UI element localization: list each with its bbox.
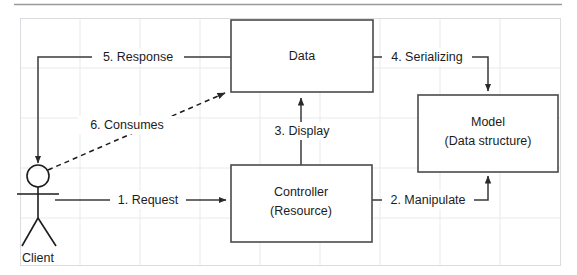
edge-label-display: 3. Display xyxy=(275,124,331,138)
node-data-label: Data xyxy=(289,49,315,63)
edge-label-consumes: 6. Consumes xyxy=(90,118,164,132)
node-controller-label: Controller xyxy=(274,185,328,199)
edge-label-response: 5. Response xyxy=(103,50,173,64)
node-model-label: Model xyxy=(471,115,505,129)
edge-label-serializing: 4. Serializing xyxy=(391,50,463,64)
actor-client-label: Client xyxy=(22,251,54,265)
flow-diagram: 5. Response 6. Consumes 3. Display 1. Re… xyxy=(0,0,577,275)
node-controller[interactable]: Controller (Resource) xyxy=(231,165,372,242)
diagram-canvas: 5. Response 6. Consumes 3. Display 1. Re… xyxy=(0,0,577,275)
node-model-sublabel: (Data structure) xyxy=(445,134,532,148)
node-model[interactable]: Model (Data structure) xyxy=(418,95,558,172)
node-data[interactable]: Data xyxy=(231,20,373,92)
edge-label-manipulate: 2. Manipulate xyxy=(390,193,465,207)
edge-label-request: 1. Request xyxy=(118,193,179,207)
node-controller-sublabel: (Resource) xyxy=(270,204,332,218)
